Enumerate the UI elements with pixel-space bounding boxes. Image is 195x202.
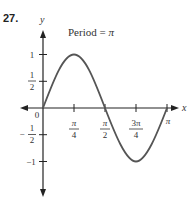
chart-svg: 27. Period = π y x 0 π 4 π 2 3π [0, 0, 195, 202]
y-axis: y [39, 14, 46, 197]
tick-label-neg-half-num: 1 [30, 123, 35, 133]
tick-label-neg-half-den: 2 [30, 135, 35, 145]
tick-label-neg-sign: − [19, 129, 24, 139]
chart-title: Period = π [68, 26, 114, 38]
tick-label-half-den: 2 [30, 82, 35, 92]
x-axis-left-arrow-icon [20, 105, 28, 111]
x-axis-label: x [181, 102, 187, 113]
tick-label-0: 0 [35, 110, 40, 120]
tick-label-1: 1 [30, 50, 35, 60]
tick-label-pi: π [166, 116, 171, 126]
tick-label-neg-1: −1 [26, 157, 36, 167]
tick-label-pi-4-num: π [72, 118, 77, 128]
y-axis-down-arrow-icon [40, 189, 46, 197]
y-axis-up-arrow-icon [40, 30, 46, 38]
tick-label-3pi-4-den: 4 [134, 130, 139, 140]
x-tick-labels: 0 π 4 π 2 3π 4 π [35, 110, 171, 140]
tick-label-pi-2-num: π [103, 118, 108, 128]
tick-label-pi-4-den: 4 [72, 130, 77, 140]
tick-label-half-num: 1 [30, 70, 35, 80]
tick-label-pi-2-den: 2 [103, 130, 108, 140]
x-axis-right-arrow-icon [171, 105, 179, 111]
y-axis-label: y [39, 14, 45, 25]
tick-label-3pi-4-num: 3π [131, 118, 141, 128]
problem-number: 27. [3, 12, 18, 24]
